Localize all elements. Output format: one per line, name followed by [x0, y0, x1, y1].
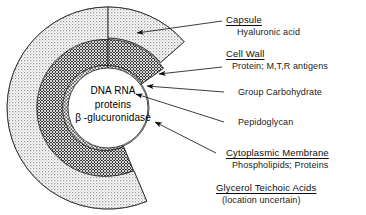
label-pepidoglycan-text: Pepidoglycan — [238, 116, 293, 128]
cytoplasm-contents: DNA RNA proteins β -glucuronidase — [53, 84, 173, 125]
label-pepidoglycan: Pepidoglycan — [238, 116, 293, 128]
label-glycerol-teichoic-acids-detail: (location uncertain) — [216, 194, 316, 206]
label-cytoplasmic-membrane: Cytoplasmic Membrane Phospholipids; Prot… — [226, 147, 329, 171]
label-cell-wall: Cell Wall Protein; M,T,R antigens — [226, 48, 328, 72]
core-line-proteins: proteins — [53, 98, 173, 112]
label-capsule: Capsule Hyaluronic acid — [226, 14, 300, 38]
label-cytoplasmic-membrane-detail: Phospholipids; Proteins — [226, 159, 329, 171]
leader-cell-wall — [159, 67, 222, 74]
label-cell-wall-title: Cell Wall — [226, 48, 328, 60]
label-glycerol-teichoic-acids: Glycerol Teichoic Acids (location uncert… — [216, 182, 316, 206]
core-line-glucuronidase: β -glucuronidase — [53, 111, 173, 125]
label-capsule-detail: Hyaluronic acid — [226, 26, 300, 38]
label-capsule-title: Capsule — [226, 14, 300, 26]
label-cytoplasmic-membrane-title: Cytoplasmic Membrane — [226, 147, 329, 159]
core-line-dna-rna: DNA RNA — [53, 84, 173, 98]
cell-structure-figure: DNA RNA proteins β -glucuronidase Capsul… — [0, 0, 366, 215]
label-group-carbohydrate: Group Carbohydrate — [238, 86, 322, 98]
leader-cytoplasmic-membrane — [155, 122, 216, 153]
label-cell-wall-detail: Protein; M,T,R antigens — [226, 60, 328, 72]
label-group-carbohydrate-text: Group Carbohydrate — [238, 86, 322, 98]
label-glycerol-teichoic-acids-title: Glycerol Teichoic Acids — [216, 182, 316, 194]
